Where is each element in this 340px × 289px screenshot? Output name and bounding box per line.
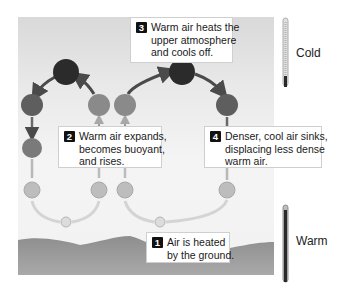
air-parcel bbox=[114, 94, 136, 116]
callout-step-3: 3 Warm air heats the upper atmosphere an… bbox=[130, 17, 233, 63]
air-parcel-warm-bottom bbox=[61, 217, 71, 227]
air-parcel bbox=[88, 94, 110, 116]
cold-label: Cold bbox=[296, 46, 321, 60]
air-parcel bbox=[117, 182, 133, 198]
air-parcel-warm-bottom bbox=[155, 217, 165, 227]
air-parcel bbox=[24, 182, 40, 198]
warm-label: Warm bbox=[296, 234, 328, 248]
air-parcel bbox=[216, 94, 238, 116]
air-parcel bbox=[219, 182, 235, 198]
callout-step-1: 1 Air is heated by the ground. bbox=[146, 232, 230, 263]
step-number-badge: 4 bbox=[210, 131, 221, 142]
step-number-badge: 3 bbox=[136, 22, 147, 33]
step-number-badge: 2 bbox=[64, 131, 75, 142]
thermometer-cold-icon bbox=[283, 18, 288, 87]
air-parcel bbox=[22, 138, 42, 158]
air-parcel bbox=[21, 94, 43, 116]
thermometer-warm-icon bbox=[283, 205, 288, 282]
air-parcel bbox=[91, 182, 107, 198]
step-number-badge: 1 bbox=[152, 237, 163, 248]
callout-step-2: 2 Warm air expands, becomes buoyant, and… bbox=[58, 126, 162, 168]
air-parcel-cold-top bbox=[53, 59, 79, 85]
callout-step-4: 4 Denser, cool air sinks, displacing les… bbox=[204, 126, 322, 168]
